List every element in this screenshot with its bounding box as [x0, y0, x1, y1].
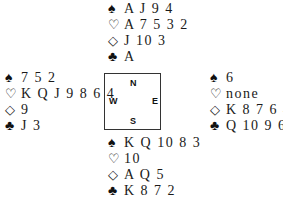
compass-box: N W E S [104, 73, 161, 130]
club-icon: ♣ [108, 49, 124, 65]
north-diamonds-row: ◇J 10 3 [108, 33, 189, 49]
compass-west-label: W [109, 96, 118, 106]
heart-icon: ♡ [108, 151, 124, 167]
west-diamonds: 9 [21, 102, 30, 117]
compass-north-label: N [130, 78, 137, 88]
diamond-icon: ◇ [5, 102, 21, 118]
north-spades-row: ♠A J 9 4 [108, 1, 189, 17]
heart-icon: ♡ [210, 86, 226, 102]
south-clubs: K 8 7 2 [124, 183, 176, 198]
club-icon: ♣ [210, 118, 226, 134]
spade-icon: ♠ [108, 135, 124, 151]
compass-east-label: E [152, 96, 158, 106]
east-hearts-row: ♡none [210, 86, 283, 102]
north-clubs: A [124, 49, 136, 64]
east-diamonds-row: ◇K 8 7 6 4 2 [210, 102, 283, 118]
compass-south-label: S [130, 116, 136, 126]
west-hearts-row: ♡K Q J 9 8 6 4 [5, 86, 115, 102]
spade-icon: ♠ [5, 70, 21, 86]
east-clubs-row: ♣Q 10 9 6 5 4 [210, 118, 283, 134]
heart-icon: ♡ [108, 17, 124, 33]
east-hearts: none [226, 86, 259, 101]
south-spades: K Q 10 8 3 [124, 135, 201, 150]
north-spades: A J 9 4 [124, 1, 174, 16]
south-hearts: 10 [124, 151, 141, 166]
south-hand: ♠K Q 10 8 3 ♡10 ◇A Q 5 ♣K 8 7 2 [108, 135, 201, 199]
east-diamonds: K 8 7 6 4 2 [226, 102, 283, 117]
club-icon: ♣ [5, 118, 21, 134]
west-clubs-row: ♣J 3 [5, 118, 115, 134]
west-spades-row: ♠7 5 2 [5, 70, 115, 86]
west-hand: ♠7 5 2 ♡K Q J 9 8 6 4 ◇9 ♣J 3 [5, 70, 115, 134]
north-diamonds: J 10 3 [124, 33, 166, 48]
west-diamonds-row: ◇9 [5, 102, 115, 118]
south-clubs-row: ♣K 8 7 2 [108, 183, 201, 199]
west-hearts: K Q J 9 8 6 4 [21, 86, 115, 101]
east-hand: ♠6 ♡none ◇K 8 7 6 4 2 ♣Q 10 9 6 5 4 [210, 70, 283, 134]
heart-icon: ♡ [5, 86, 21, 102]
north-hand: ♠A J 9 4 ♡A 7 5 3 2 ◇J 10 3 ♣A [108, 1, 189, 65]
diamond-icon: ◇ [108, 33, 124, 49]
south-spades-row: ♠K Q 10 8 3 [108, 135, 201, 151]
east-spades: 6 [226, 70, 235, 85]
east-spades-row: ♠6 [210, 70, 283, 86]
north-hearts-row: ♡A 7 5 3 2 [108, 17, 189, 33]
east-clubs: Q 10 9 6 5 4 [226, 118, 283, 133]
diamond-icon: ◇ [108, 167, 124, 183]
west-spades: 7 5 2 [21, 70, 57, 85]
spade-icon: ♠ [210, 70, 226, 86]
north-clubs-row: ♣A [108, 49, 189, 65]
club-icon: ♣ [108, 183, 124, 199]
north-hearts: A 7 5 3 2 [124, 17, 189, 32]
south-diamonds: A Q 5 [124, 167, 165, 182]
diamond-icon: ◇ [210, 102, 226, 118]
spade-icon: ♠ [108, 1, 124, 17]
west-clubs: J 3 [21, 118, 41, 133]
south-diamonds-row: ◇A Q 5 [108, 167, 201, 183]
south-hearts-row: ♡10 [108, 151, 201, 167]
